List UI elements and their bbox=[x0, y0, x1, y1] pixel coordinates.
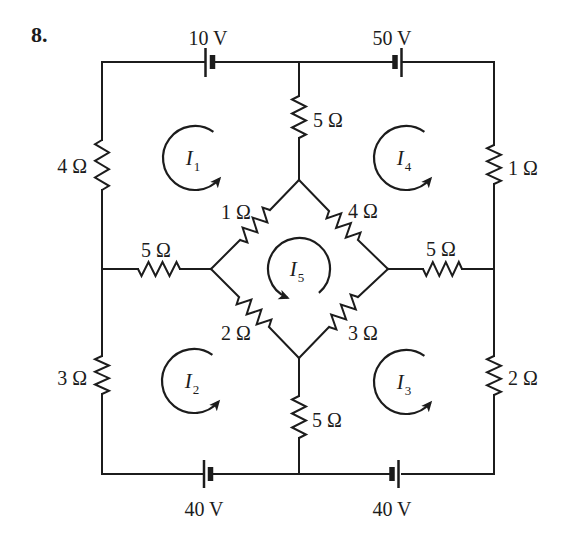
resistor-label-center-bottom: 5 Ω bbox=[312, 409, 342, 431]
loop-current-label-i3: I3 bbox=[396, 370, 412, 398]
loop-current-label-i5: I5 bbox=[289, 257, 305, 285]
resistor-zigzag-mid-left bbox=[138, 262, 180, 276]
resistor-label-bridge-lower-left: 2 Ω bbox=[221, 322, 251, 344]
battery-symbol-bottom-left bbox=[204, 460, 211, 488]
circuit-diagram: 8. 10 V 50 V 40 V 40 V 4 Ω 3 Ω 1 Ω 2 Ω 5… bbox=[0, 0, 572, 551]
loop-current-label-i1: I1 bbox=[185, 146, 201, 174]
source-label-top-right: 50 V bbox=[372, 27, 412, 49]
battery-symbol-bottom-right bbox=[392, 460, 399, 488]
battery-symbol-top-left bbox=[206, 48, 213, 77]
source-label-bottom-left: 40 V bbox=[184, 498, 224, 520]
resistor-label-mid-right: 5 Ω bbox=[426, 238, 456, 260]
resistor-label-center-top: 5 Ω bbox=[313, 109, 343, 131]
loop-arrow-i5 bbox=[268, 238, 330, 298]
resistor-zigzag-right-top bbox=[487, 145, 501, 184]
resistor-label-right-top: 1 Ω bbox=[508, 157, 538, 179]
resistor-zigzag-left-top bbox=[95, 140, 109, 190]
resistor-label-right-bottom: 2 Ω bbox=[508, 367, 538, 389]
loop-current-label-i2: I2 bbox=[184, 369, 200, 397]
problem-number: 8. bbox=[31, 22, 48, 47]
resistor-zigzag-left-bottom bbox=[95, 356, 109, 394]
resistor-label-bridge-upper-right: 4 Ω bbox=[348, 200, 378, 222]
resistor-zigzag-right-bottom bbox=[487, 356, 501, 395]
circuit-svg: 8. 10 V 50 V 40 V 40 V 4 Ω 3 Ω 1 Ω 2 Ω 5… bbox=[0, 0, 572, 551]
resistor-zigzag-mid-right bbox=[423, 262, 462, 276]
source-label-top-left: 10 V bbox=[188, 27, 228, 49]
resistor-zigzag-center-bottom bbox=[292, 396, 306, 438]
resistor-label-bridge-upper-left: 1 Ω bbox=[221, 201, 251, 223]
battery-symbol-top-right bbox=[395, 48, 402, 77]
resistor-label-left-top: 4 Ω bbox=[57, 155, 87, 177]
resistor-zigzag-center-top bbox=[292, 96, 306, 138]
resistor-label-mid-left: 5 Ω bbox=[141, 239, 171, 261]
loop-current-label-i4: I4 bbox=[396, 146, 412, 174]
wire-bridge-lower-left bbox=[211, 269, 299, 358]
source-label-bottom-right: 40 V bbox=[372, 498, 412, 520]
resistor-label-bridge-lower-right: 3 Ω bbox=[348, 322, 378, 344]
resistor-label-left-bottom: 3 Ω bbox=[57, 367, 87, 389]
